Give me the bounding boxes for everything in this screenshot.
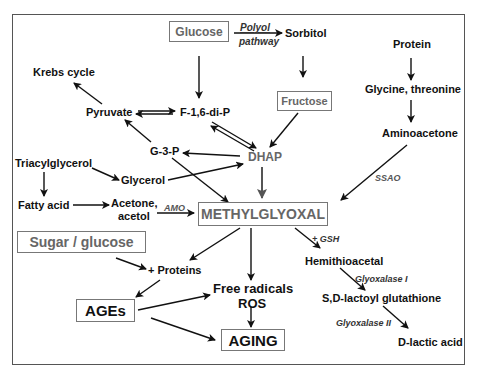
d-lactic-acid-label: D-lactic acid xyxy=(398,336,463,349)
ssao-label: SSAO xyxy=(375,172,401,185)
free-radicals-label: Free radicals xyxy=(213,281,293,296)
f16dip-label: F-1,6-di-P xyxy=(180,106,230,119)
pyruvate-label: Pyruvate xyxy=(86,106,132,119)
aging-box: AGING xyxy=(221,329,285,351)
krebs-cycle-label: Krebs cycle xyxy=(33,66,95,79)
fructose-box: Fructose xyxy=(277,91,332,111)
hemithioacetal-label: Hemithioacetal xyxy=(305,255,383,268)
dhap-label: DHAP xyxy=(248,151,282,164)
sd-lactoyl-glutathione-label: S,D-lactoyl glutathione xyxy=(322,292,441,305)
pathway-label: pathway xyxy=(239,35,279,48)
sugar-glucose-label: Sugar / glucose xyxy=(29,234,133,250)
polyol-label: Polyol xyxy=(240,21,270,34)
acetone-label: Acetone, xyxy=(111,197,157,210)
aging-label: AGING xyxy=(228,332,277,349)
proteins-label: + Proteins xyxy=(148,264,202,277)
arrows-layer xyxy=(0,0,477,375)
fructose-label: Fructose xyxy=(281,95,327,107)
gsh-label: + GSH xyxy=(312,233,339,246)
glucose-box: Glucose xyxy=(169,21,229,42)
acetol-label: acetol xyxy=(118,210,150,223)
methylglyoxal-label: METHYLGLYOXAL xyxy=(201,206,325,222)
ros-label: ROS xyxy=(238,296,266,311)
glyoxalase-i-label: Glyoxalase I xyxy=(355,273,408,286)
glycerol-label: Glycerol xyxy=(121,174,165,187)
glyoxalase-ii-label: Glyoxalase II xyxy=(336,317,391,330)
triacylglycerol-label: Triacylglycerol xyxy=(15,157,92,170)
aminoacetone-label: Aminoacetone xyxy=(382,127,458,140)
glycine-threonine-label: Glycine, threonine xyxy=(365,83,461,96)
amo-label: AMO xyxy=(164,202,185,215)
sugar-glucose-box: Sugar / glucose xyxy=(17,231,146,253)
ages-box: AGEs xyxy=(76,299,135,322)
sorbitol-label: Sorbitol xyxy=(285,27,327,40)
fatty-acid-label: Fatty acid xyxy=(18,199,69,212)
protein-label: Protein xyxy=(393,38,431,51)
g3p-label: G-3-P xyxy=(150,145,179,158)
glucose-label: Glucose xyxy=(175,25,222,39)
methylglyoxal-box: METHYLGLYOXAL xyxy=(198,202,328,226)
ages-label: AGEs xyxy=(85,302,126,319)
